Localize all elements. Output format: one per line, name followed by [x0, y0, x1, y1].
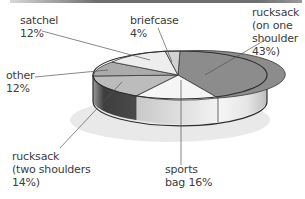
- label-sports-bag: sports bag 16%: [165, 163, 212, 189]
- label-other: other 12%: [6, 69, 34, 95]
- label-satchel: satchel 12%: [20, 14, 58, 40]
- label-rucksack-two-shoulders: rucksack (two shoulders 14%): [12, 150, 91, 189]
- label-rucksack-one-shoulder: rucksack (on one shoulder 43%): [252, 6, 299, 58]
- label-briefcase: briefcase 4%: [130, 14, 179, 40]
